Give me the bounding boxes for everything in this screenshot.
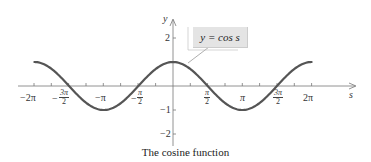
figure-caption: The cosine function — [0, 146, 371, 158]
x-axis-label: s — [349, 90, 353, 100]
callout-leader — [188, 47, 209, 63]
x-tick-3pi2: 3π2 — [273, 89, 283, 106]
function-label-box: y = cos s — [193, 27, 248, 48]
x-tick-neg2pi: −2π — [20, 93, 36, 103]
x-tick-pi: π — [240, 93, 245, 103]
x-tick-negpi: −π — [95, 93, 106, 103]
y-tick-2: 2 — [165, 33, 170, 43]
x-tick-2pi: 2π — [303, 93, 313, 103]
cosine-graph — [0, 0, 371, 162]
y-axis-label: y — [163, 14, 167, 24]
x-tick-neg3pi2: 3π2 — [59, 89, 69, 106]
function-label: y = cos s — [200, 31, 240, 43]
y-tick-neg1: −1 — [160, 105, 171, 115]
x-tick-pi2: π2 — [204, 89, 210, 106]
y-tick-neg2: −2 — [160, 129, 171, 139]
x-tick-neg3pi2-sign: − — [52, 94, 58, 104]
x-tick-negpi2-sign: − — [131, 94, 137, 104]
x-tick-negpi2: π2 — [137, 89, 143, 106]
